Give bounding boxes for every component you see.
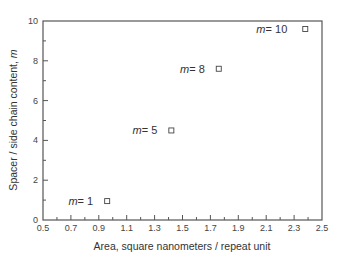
x-tick-label: 2.1 xyxy=(260,223,273,233)
y-tick-label: 6 xyxy=(33,96,38,106)
y-axis: 0246810 xyxy=(28,16,48,225)
x-tick-label: 1.9 xyxy=(232,223,245,233)
data-points xyxy=(105,26,308,203)
x-tick-label: 0.7 xyxy=(65,223,78,233)
y-tick-label: 0 xyxy=(33,215,38,225)
x-axis: 0.50.70.91.11.31.51.71.92.12.32.5 xyxy=(37,215,329,233)
x-tick-label: 1.3 xyxy=(148,223,161,233)
x-tick-label: 2.5 xyxy=(316,223,329,233)
scatter-chart: 0.50.70.91.11.31.51.71.92.12.32.5 024681… xyxy=(0,0,347,259)
x-tick-label: 0.9 xyxy=(93,223,106,233)
data-point-square xyxy=(169,128,174,133)
data-point-square xyxy=(105,199,110,204)
x-tick-label: 1.1 xyxy=(120,223,133,233)
x-axis-title: Area, square nanometers / repeat unit xyxy=(94,240,271,252)
point-annotations: m= 1m= 5m= 8m= 10 xyxy=(68,23,287,207)
point-label: m= 5 xyxy=(133,124,158,136)
y-axis-title: Spacer / side chain content, m xyxy=(7,49,19,191)
y-tick-label: 10 xyxy=(28,16,38,26)
y-tick-label: 2 xyxy=(33,175,38,185)
data-point-square xyxy=(303,26,308,31)
plot-frame xyxy=(43,21,322,220)
point-label: m= 1 xyxy=(68,195,93,207)
data-point-square xyxy=(216,66,221,71)
y-tick-label: 4 xyxy=(33,135,38,145)
x-tick-label: 0.5 xyxy=(37,223,50,233)
point-label: m= 8 xyxy=(180,63,205,75)
x-tick-label: 1.5 xyxy=(176,223,189,233)
plot-border xyxy=(43,21,322,220)
x-tick-label: 1.7 xyxy=(204,223,217,233)
point-label: m= 10 xyxy=(256,23,287,35)
y-tick-label: 8 xyxy=(33,56,38,66)
x-tick-label: 2.3 xyxy=(288,223,301,233)
